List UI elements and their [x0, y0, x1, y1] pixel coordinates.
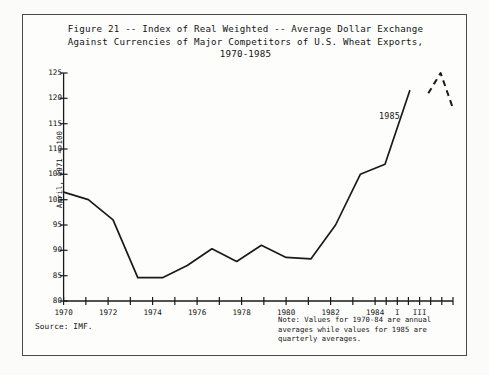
x-tick-label: 1972 — [88, 309, 128, 317]
source-note: Source: IMF. — [35, 322, 93, 331]
x-tick-label: 1976 — [177, 309, 217, 317]
y-tick-label: 115 — [36, 120, 62, 128]
y-tick-label: 95 — [36, 221, 62, 229]
y-tick-label: 110 — [36, 145, 62, 153]
data-line-quarterly — [428, 73, 453, 108]
y-tick-label: 125 — [36, 69, 62, 77]
plot-area: April, 1971 = 100 125 120 115 110 105 10… — [23, 15, 468, 357]
annotation-1985: 1985 — [379, 111, 400, 121]
figure-frame: Figure 21 -- Index of Real Weighted -- A… — [22, 14, 467, 356]
y-tick-label: 105 — [36, 170, 62, 178]
chart-note: Note: Values for 1970-84 are annual aver… — [278, 315, 458, 344]
y-tick-label: 90 — [36, 246, 62, 254]
data-line-annual — [64, 91, 410, 278]
x-tick-label: 1974 — [133, 309, 173, 317]
y-tick-label: 120 — [36, 94, 62, 102]
x-tick-label: 1978 — [222, 309, 262, 317]
y-tick-label: 80 — [36, 297, 62, 305]
y-tick-label: 85 — [36, 272, 62, 280]
figure-page: Figure 21 -- Index of Real Weighted -- A… — [0, 0, 489, 375]
y-tick-label: 100 — [36, 196, 62, 204]
x-tick-label: 1970 — [44, 309, 84, 317]
plot-svg — [23, 15, 468, 357]
